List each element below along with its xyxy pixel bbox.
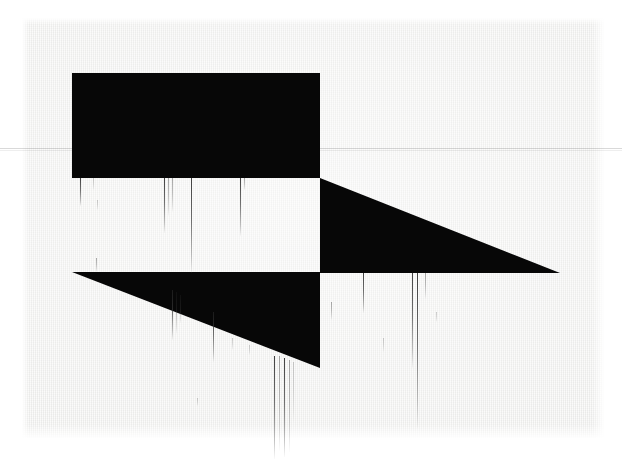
upper-triangle (72, 73, 320, 178)
artwork-canvas (0, 0, 622, 459)
lower-triangle (72, 272, 320, 368)
diagonal-wedge (320, 178, 560, 273)
ink-shapes-layer (0, 0, 622, 459)
